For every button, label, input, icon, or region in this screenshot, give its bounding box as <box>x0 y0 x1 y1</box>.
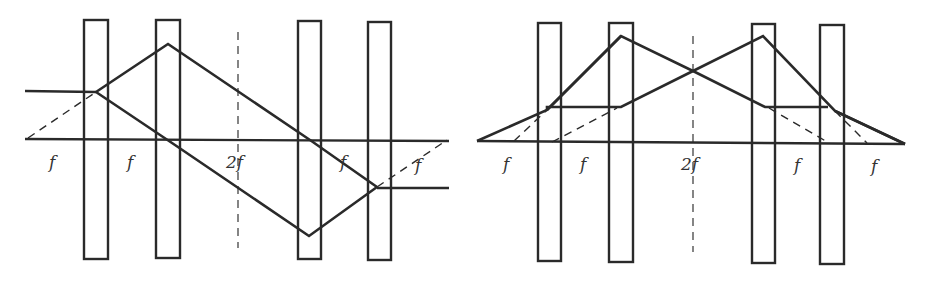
left-figure: f f 2f f f <box>25 20 449 260</box>
left-optical-axis <box>25 139 449 141</box>
right-label-2f: 2f <box>680 154 701 174</box>
left-construction-line-1 <box>28 92 96 138</box>
right-label-f-2: f <box>578 154 589 174</box>
right-label-f-3: f <box>792 155 803 175</box>
right-figure: f f 2f f f <box>477 23 905 264</box>
right-ray-right-fall <box>835 111 905 144</box>
right-label-f-4: f <box>869 156 880 176</box>
lens-diagram-canvas: f f 2f f f f f 2f f f <box>0 0 925 283</box>
right-ray-b <box>547 36 905 144</box>
left-label-f-4: f <box>413 155 424 175</box>
left-label-2f: 2f <box>225 152 246 172</box>
right-construction-line-1 <box>514 110 547 141</box>
left-label-f-2: f <box>125 152 136 172</box>
right-label-f-1: f <box>501 154 512 174</box>
right-optical-axis <box>477 141 905 144</box>
left-construction-line-2 <box>377 140 447 187</box>
left-label-f-3: f <box>338 152 349 172</box>
right-construction-line-4 <box>835 111 867 143</box>
left-label-f-1: f <box>47 152 58 172</box>
left-incident-ray <box>25 91 96 92</box>
